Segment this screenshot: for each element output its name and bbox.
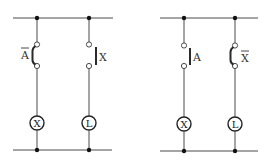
- switch-terminal: [181, 63, 186, 68]
- lamp-label: L: [86, 118, 93, 129]
- left-circuit: A X X L: [13, 16, 113, 152]
- left-branch-2: X L: [82, 16, 107, 152]
- switch-label: X: [241, 52, 249, 65]
- lamp-label: X: [33, 118, 41, 129]
- switch-terminal: [86, 63, 91, 68]
- switch-label: X: [99, 51, 107, 64]
- junction-node: [35, 16, 39, 20]
- switch-label: A: [20, 49, 30, 62]
- junction-node: [233, 149, 237, 153]
- switch-terminal: [181, 43, 186, 48]
- junction-node: [182, 149, 186, 153]
- right-branch-2: X L: [228, 16, 249, 153]
- switch-label: A: [192, 51, 202, 64]
- right-branch-1: A X: [177, 16, 202, 153]
- closed-contact-blade-icon: [33, 46, 36, 65]
- junction-node: [182, 16, 186, 20]
- left-branch-1: A X: [20, 16, 44, 152]
- junction-node: [35, 148, 39, 152]
- ladder-diagram: A X X L: [0, 0, 269, 164]
- junction-node: [87, 16, 91, 20]
- junction-node: [233, 16, 237, 20]
- junction-node: [87, 148, 91, 152]
- lamp-label: X: [180, 119, 188, 130]
- switch-terminal: [86, 42, 91, 47]
- right-circuit: A X X L: [160, 16, 258, 153]
- lamp-label: L: [232, 119, 239, 130]
- closed-contact-blade-icon: [231, 47, 234, 65]
